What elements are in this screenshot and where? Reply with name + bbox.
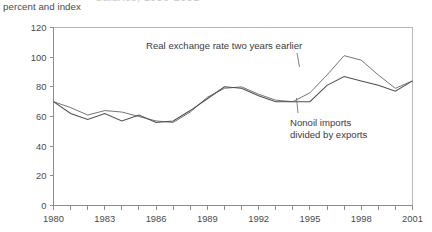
y-tick-label: 120 bbox=[31, 22, 47, 33]
y-tick-label: 20 bbox=[36, 170, 46, 181]
y-axis-ticks: 020406080100120 bbox=[31, 22, 54, 211]
plot-border bbox=[54, 28, 413, 206]
annotation-leader-upper bbox=[297, 53, 300, 67]
x-tick-label: 1986 bbox=[146, 213, 167, 224]
data-series-group bbox=[54, 56, 413, 123]
annotation-nonoil-imports-line1: Nonoil imports bbox=[290, 117, 352, 128]
x-tick-label: 1995 bbox=[299, 213, 320, 224]
y-tick-label: 0 bbox=[41, 200, 46, 211]
x-tick-label: 1998 bbox=[351, 213, 372, 224]
x-tick-label: 1989 bbox=[197, 213, 218, 224]
chart-plot-area: 020406080100120 198019831986198919921995… bbox=[0, 0, 432, 232]
annotation-nonoil-imports-line2: divided by exports bbox=[290, 129, 368, 140]
series-line-2 bbox=[54, 76, 413, 122]
annotation-real-exchange-rate: Real exchange rate two years earlier bbox=[146, 40, 303, 51]
plot-frame bbox=[54, 28, 413, 206]
y-tick-label: 40 bbox=[36, 141, 46, 152]
annotations-group: Real exchange rate two years earlierNono… bbox=[146, 40, 368, 140]
x-tick-label: 1980 bbox=[43, 213, 64, 224]
chart-figure: balance, 1980-2001 percent and index 020… bbox=[0, 0, 432, 232]
x-tick-label: 2001 bbox=[402, 213, 423, 224]
y-tick-label: 60 bbox=[36, 111, 46, 122]
y-tick-label: 100 bbox=[31, 52, 47, 63]
series-line-1 bbox=[54, 56, 413, 123]
y-tick-label: 80 bbox=[36, 81, 46, 92]
x-axis-ticks: 19801983198619891992199519982001 bbox=[43, 206, 423, 224]
x-tick-label: 1992 bbox=[248, 213, 269, 224]
annotation-leader-lower bbox=[297, 98, 299, 113]
x-tick-label: 1983 bbox=[94, 213, 115, 224]
